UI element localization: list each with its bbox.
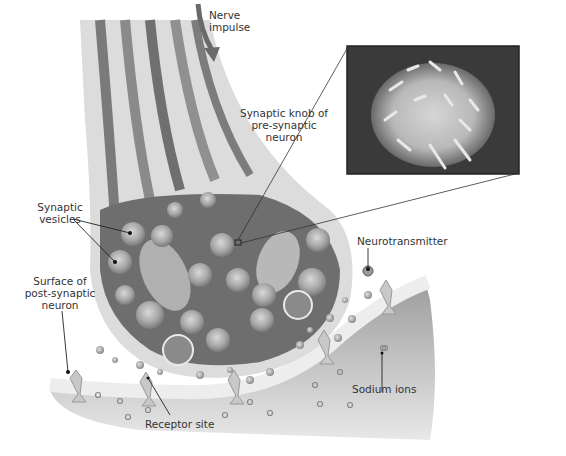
synaptic-knob-label: Synaptic knob of pre-synaptic neuron bbox=[224, 107, 344, 143]
receptor-site-label: Receptor site bbox=[145, 418, 214, 430]
synaptic-vesicles-label: Synaptic vesicles bbox=[30, 201, 90, 225]
neurotransmitter-label: Neurotransmitter bbox=[357, 235, 448, 247]
synaptic-knob-label-line1: Synaptic knob of bbox=[224, 107, 344, 119]
nerve-impulse-label-line2: impulse bbox=[209, 21, 250, 33]
nerve-impulse-label: Nerve impulse bbox=[209, 9, 250, 33]
synapse-diagram: Nerve impulse Synaptic knob of pre-synap… bbox=[0, 0, 566, 456]
post-synaptic-surface-label: Surface of post-synaptic neuron bbox=[10, 275, 110, 311]
synapse-illustration bbox=[0, 0, 566, 456]
synaptic-knob-label-line2: pre-synaptic bbox=[224, 119, 344, 131]
surface-label-line2: post-synaptic bbox=[10, 287, 110, 299]
electron-micrograph-inset bbox=[347, 46, 519, 174]
surface-label-line1: Surface of bbox=[10, 275, 110, 287]
synaptic-knob-label-line3: neuron bbox=[224, 131, 344, 143]
vesicles-label-line1: Synaptic bbox=[30, 201, 90, 213]
nerve-impulse-label-line1: Nerve bbox=[209, 9, 250, 21]
sodium-ions-label: Sodium ions bbox=[352, 383, 416, 395]
surface-label-line3: neuron bbox=[10, 299, 110, 311]
vesicles-label-line2: vesicles bbox=[30, 213, 90, 225]
